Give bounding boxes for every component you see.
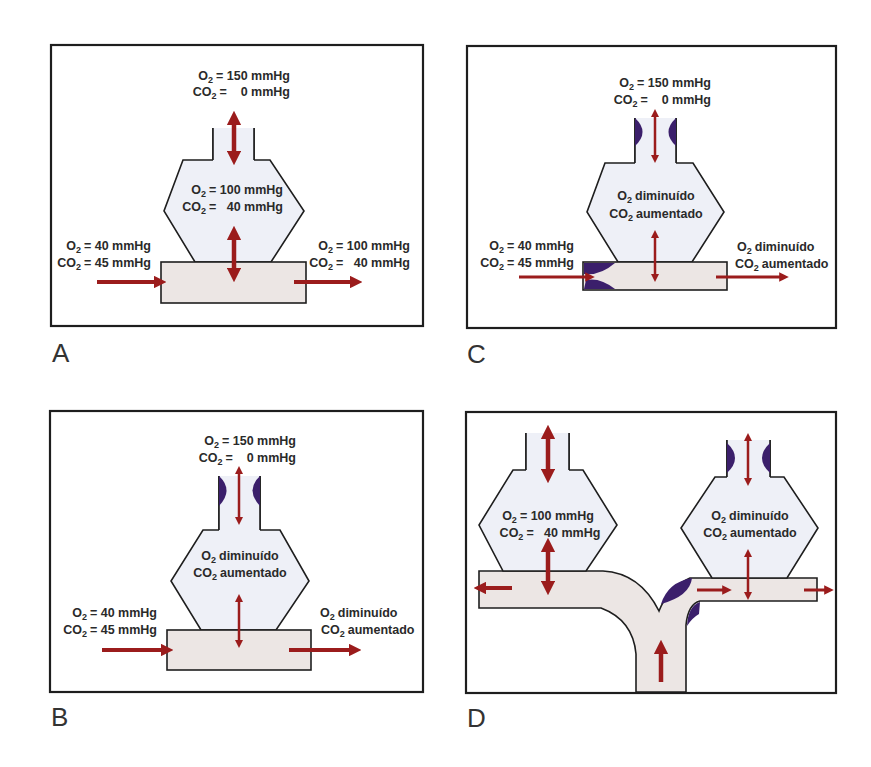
venous-co2-label: CO2= 45 mmHg: [480, 256, 574, 272]
left-alveolar-co2-label: CO2= 40 mmHg: [500, 526, 601, 542]
alveolar-co2-label: CO2aumentado: [193, 566, 287, 582]
alveolar-co2-label: CO2aumentado: [609, 207, 703, 223]
panel-label-b: B: [51, 702, 68, 732]
venous-co2-label: CO2= 45 mmHg: [63, 623, 157, 639]
inspired-co2-label: CO2= 0 mmHg: [199, 451, 296, 467]
panel-d: O2= 100 mmHg CO2= 40 mmHg O2diminuído CO…: [466, 412, 836, 733]
panel-label-a: A: [52, 338, 70, 368]
venous-co2-label: CO2= 45 mmHg: [57, 256, 151, 272]
inspired-co2-label: CO2= 0 mmHg: [193, 85, 290, 101]
panel-c: O2= 150 mmHg CO2= 0 mmHg O2diminuído CO2…: [467, 46, 836, 369]
inspired-co2-label: CO2= 0 mmHg: [614, 93, 711, 109]
panel-a: O2= 150 mmHg CO2= 0 mmHg O2= 100 mmHg CO…: [51, 45, 423, 368]
arterial-co2-label: CO2aumentado: [735, 257, 829, 273]
panel-b: O2= 150 mmHg CO2= 0 mmHg O2diminuído CO2…: [50, 411, 423, 732]
right-alveolar-co2-label: CO2aumentado: [703, 526, 797, 542]
figure-canvas: O2= 150 mmHg CO2= 0 mmHg O2= 100 mmHg CO…: [0, 0, 871, 767]
arterial-co2-label: CO2aumentado: [321, 623, 415, 639]
arterial-co2-label: CO2= 40 mmHg: [309, 256, 410, 272]
panel-label-d: D: [467, 703, 486, 733]
panel-label-c: C: [467, 339, 486, 369]
alveolar-co2-label: CO2= 40 mmHg: [182, 200, 283, 216]
